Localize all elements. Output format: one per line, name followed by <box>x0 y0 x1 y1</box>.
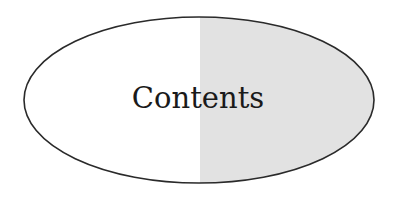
contents-diagram: Contents <box>0 0 398 197</box>
contents-label: Contents <box>132 81 264 115</box>
